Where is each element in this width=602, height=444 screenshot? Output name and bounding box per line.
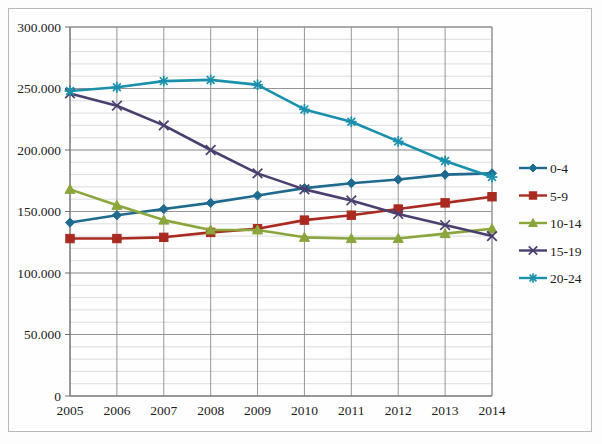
data-point-marker-asterisk (65, 86, 76, 97)
data-point-marker-diamond (347, 179, 356, 188)
data-point-marker-asterisk (158, 76, 169, 87)
data-series-group (65, 74, 498, 242)
data-point-marker-triangle (65, 184, 75, 193)
x-axis-tick-label: 2014 (479, 403, 506, 418)
series-line (70, 197, 492, 239)
y-axis-tick-label: 0 (54, 389, 61, 404)
x-axis-tick-label: 2005 (57, 403, 84, 418)
legend-item-label: 0-4 (550, 161, 568, 176)
legend-item-label: 15-19 (550, 244, 582, 259)
chart-figure: 050.000100.000150.000200.000250.000300.0… (0, 0, 602, 444)
legend-item-15-19[interactable]: 15-19 (519, 244, 582, 259)
data-point-marker-asterisk (299, 104, 310, 115)
y-axis-tick-labels: 050.000100.000150.000200.000250.000300.0… (17, 20, 70, 404)
x-axis-tick-label: 2007 (150, 403, 177, 418)
y-axis-tick-label: 300.000 (17, 20, 61, 35)
x-axis-tick-label: 2011 (338, 403, 365, 418)
data-point-marker-asterisk (528, 273, 538, 283)
data-point-marker-diamond (112, 211, 121, 220)
data-point-marker-square (160, 233, 168, 241)
data-point-marker-asterisk (440, 156, 451, 167)
legend-item-label: 10-14 (550, 216, 582, 231)
data-point-marker-square (441, 199, 449, 207)
data-point-marker-square (529, 192, 536, 199)
legend-item-10-14[interactable]: 10-14 (519, 216, 582, 231)
series-line (70, 93, 492, 236)
x-axis-tick-label: 2012 (385, 403, 412, 418)
x-axis-tick-label: 2006 (103, 403, 130, 418)
data-point-marker-diamond (206, 198, 215, 207)
data-point-marker-square (113, 234, 121, 242)
chart-legend: 0-45-910-1415-1920-24 (519, 161, 582, 286)
x-axis-tick-label: 2009 (244, 403, 271, 418)
data-point-marker-asterisk (393, 136, 404, 147)
data-point-marker-diamond (159, 204, 168, 213)
legend-item-0-4[interactable]: 0-4 (519, 161, 568, 176)
data-point-marker-diamond (65, 218, 74, 227)
legend-item-5-9[interactable]: 5-9 (519, 189, 568, 204)
y-axis-tick-label: 200.000 (17, 143, 61, 158)
data-point-marker-square (488, 193, 496, 201)
data-point-marker-diamond (441, 170, 450, 179)
data-point-marker-diamond (529, 164, 537, 172)
data-point-marker-diamond (394, 175, 403, 184)
data-point-marker-asterisk (252, 79, 263, 90)
y-axis-tick-label: 100.000 (17, 266, 61, 281)
data-point-marker-square (66, 234, 74, 242)
x-axis-tick-label: 2013 (432, 403, 459, 418)
data-point-marker-square (347, 211, 355, 219)
x-axis-tick-label: 2010 (291, 403, 318, 418)
y-axis-tick-label: 250.000 (17, 81, 61, 96)
data-point-marker-asterisk (111, 82, 122, 93)
data-point-marker-asterisk (487, 172, 498, 183)
series-20-24 (65, 74, 498, 182)
legend-item-label: 20-24 (550, 271, 582, 286)
y-axis-tick-label: 50.000 (24, 327, 61, 342)
data-point-marker-asterisk (346, 116, 357, 127)
series-15-19 (65, 89, 497, 241)
data-point-marker-asterisk (205, 74, 216, 85)
line-chart: 050.000100.000150.000200.000250.000300.0… (0, 0, 602, 444)
legend-item-label: 5-9 (550, 189, 568, 204)
series-0-4 (65, 169, 496, 227)
x-axis-tick-label: 2008 (197, 403, 224, 418)
data-point-marker-square (300, 216, 308, 224)
legend-item-20-24[interactable]: 20-24 (519, 271, 582, 286)
y-axis-tick-label: 150.000 (17, 204, 61, 219)
data-point-marker-diamond (253, 191, 262, 200)
x-axis-tick-labels: 2005200620072008200920102011201220132014 (57, 403, 506, 418)
